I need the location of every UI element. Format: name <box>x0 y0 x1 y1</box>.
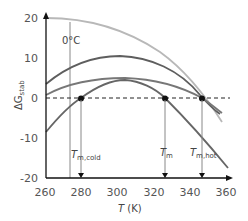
chart-svg: 20 10 0 -10 -20 260 280 300 320 340 360 … <box>0 0 248 221</box>
y-axis-label: ΔGstab <box>13 80 26 110</box>
zero-celsius-label: 0°C <box>62 35 80 46</box>
tm-hot-arrow-icon <box>199 173 205 178</box>
x-axis-label: T (K) <box>118 203 142 214</box>
x-tick-300: 300 <box>107 186 128 199</box>
y-tick-minus-10: -10 <box>20 132 38 145</box>
y-tick-10: 10 <box>24 52 38 65</box>
x-tick-320: 320 <box>144 186 165 199</box>
x-tick-340: 340 <box>180 186 201 199</box>
y-axis-arrow-icon <box>43 12 49 19</box>
x-tick-280: 280 <box>71 186 92 199</box>
tm-label: Tm <box>160 147 173 160</box>
y-tick-0: 0 <box>31 92 38 105</box>
middle-curve <box>46 78 222 113</box>
tm-cold-arrow-icon <box>78 173 84 178</box>
y-tick-minus-20: -20 <box>20 172 38 185</box>
y-tick-20: 20 <box>24 12 38 25</box>
x-tick-360: 360 <box>216 186 237 199</box>
tm-cold-label: Tm,cold <box>71 149 101 162</box>
x-axis-arrow-icon <box>226 175 233 181</box>
tm-arrow-icon <box>162 173 168 178</box>
light-curve <box>46 18 222 122</box>
stability-chart: 20 10 0 -10 -20 260 280 300 320 340 360 … <box>0 0 248 221</box>
x-tick-260: 260 <box>35 186 56 199</box>
